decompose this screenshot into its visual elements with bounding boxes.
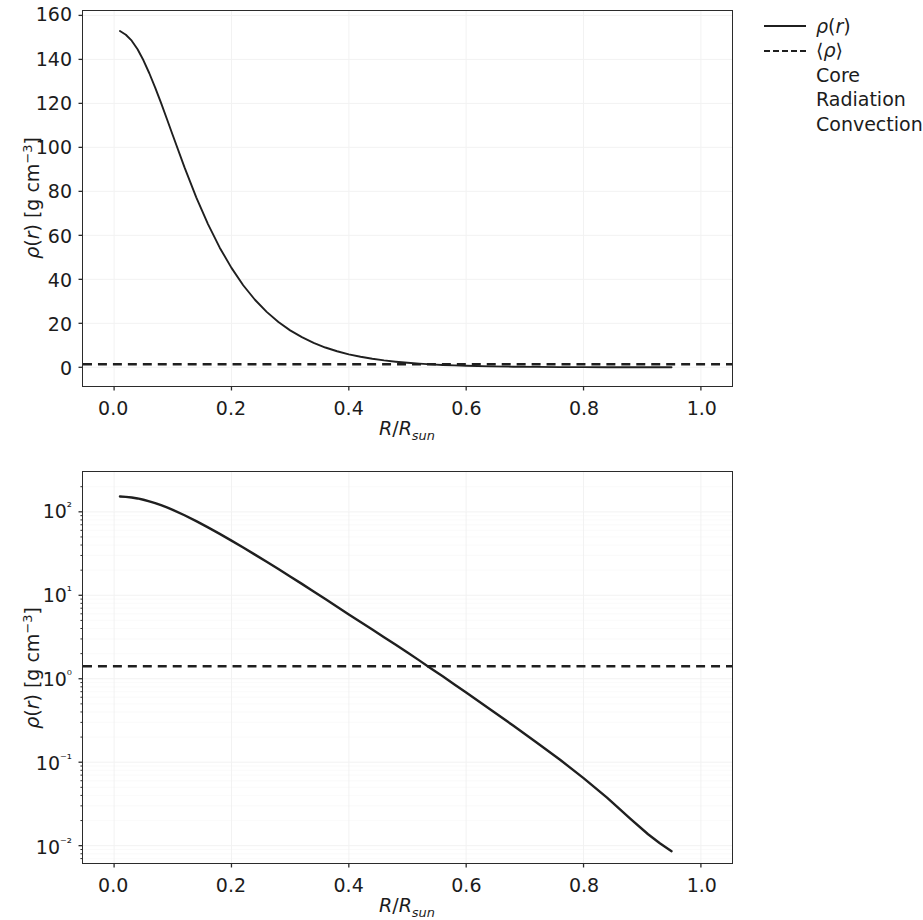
plot-area-log [83, 472, 732, 863]
x-axis-title-log: R/Rsun [379, 896, 435, 920]
x-tick-label: 0.0 [98, 876, 128, 895]
x-tick-label: 0.8 [569, 399, 599, 418]
axes-density-linear [82, 10, 733, 387]
y-tick-label: 10⁰ [43, 669, 72, 689]
legend-key-core-icon [762, 63, 808, 88]
y-axis-title-linear: ρ(r) [g cm−3] [22, 137, 42, 259]
legend-label-core: Core [816, 66, 860, 85]
x-tick-label: 0.4 [334, 876, 364, 895]
y-tick-label: 60 [48, 226, 72, 245]
legend-key-rho-mean-icon [762, 39, 808, 64]
x-tick-label: 0.2 [216, 876, 246, 895]
legend-key-rho-r-icon [762, 14, 808, 39]
x-tick-label: 1.0 [687, 876, 717, 895]
y-axis-title-log: ρ(r) [g cm−3] [22, 607, 42, 729]
x-tick-label: 0.0 [98, 399, 128, 418]
x-tick-label: 0.8 [569, 876, 599, 895]
legend: ρ(r)⟨ρ⟩CoreRadiationConvection [762, 14, 914, 137]
y-tick-label: 0 [60, 359, 72, 378]
y-tick-label: 10⁻² [36, 836, 72, 856]
x-tick-label: 0.6 [451, 876, 481, 895]
y-tick-label: 80 [48, 182, 72, 201]
y-tick-label: 140 [36, 49, 72, 68]
legend-label-rho-mean: ⟨ρ⟩ [816, 41, 843, 60]
legend-item-radiation[interactable]: Radiation [762, 88, 914, 113]
y-tick-label: 120 [36, 93, 72, 112]
y-tick-label: 10² [43, 501, 72, 521]
legend-item-convection[interactable]: Convection [762, 112, 914, 137]
legend-label-radiation: Radiation [816, 90, 906, 109]
y-tick-label: 10⁻¹ [36, 753, 72, 773]
legend-key-convection-icon [762, 112, 808, 137]
y-tick-label: 160 [36, 5, 72, 24]
axes-density-log [82, 471, 733, 864]
legend-label-rho-r: ρ(r) [816, 17, 851, 36]
plot-area-linear [83, 11, 732, 386]
x-axis-title-linear: R/Rsun [379, 419, 435, 443]
x-tick-label: 1.0 [687, 399, 717, 418]
legend-label-convection: Convection [816, 115, 923, 134]
x-tick-label: 0.6 [451, 399, 481, 418]
y-tick-label: 40 [48, 270, 72, 289]
legend-item-rho-mean[interactable]: ⟨ρ⟩ [762, 39, 914, 64]
y-tick-label: 20 [48, 314, 72, 333]
y-tick-label: 10¹ [43, 585, 72, 605]
legend-item-rho-r[interactable]: ρ(r) [762, 14, 914, 39]
legend-item-core[interactable]: Core [762, 63, 914, 88]
x-tick-label: 0.4 [334, 399, 364, 418]
legend-key-radiation-icon [762, 88, 808, 113]
x-tick-label: 0.2 [216, 399, 246, 418]
